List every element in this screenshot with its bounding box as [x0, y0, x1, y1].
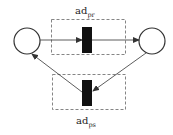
arc-bottom-transition-to-left: [32, 54, 82, 92]
right-place: [139, 28, 165, 54]
arc-right-to-bottom-transition: [93, 53, 146, 91]
left-place: [14, 28, 40, 54]
bottom-transition: [82, 80, 92, 106]
petri-net-diagram: adpr adps: [0, 0, 173, 135]
bottom-group-label: adps: [76, 115, 96, 129]
top-transition: [82, 27, 92, 53]
top-group-label: adpr: [75, 5, 96, 19]
